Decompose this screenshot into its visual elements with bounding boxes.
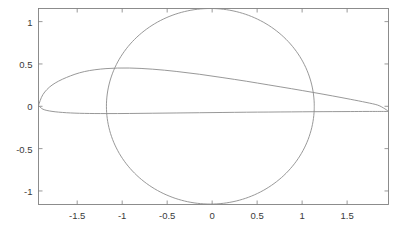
x-tick-label: 0.5: [251, 210, 264, 221]
x-tick-label: 0: [209, 210, 214, 221]
x-tick-label: 1.5: [341, 210, 354, 221]
plot-svg: [0, 0, 403, 236]
x-tick-label: 1: [299, 210, 304, 221]
curve-circle: [106, 9, 314, 205]
y-tick-label: -0.5: [16, 143, 32, 154]
y-tick-label: -1: [24, 185, 32, 196]
axes-box: [39, 9, 389, 205]
y-tick-label: 1: [27, 16, 32, 27]
x-tick-label: -1: [118, 210, 126, 221]
data-curves: [39, 9, 389, 205]
y-tick-label: 0.5: [19, 58, 32, 69]
curve-airfoil-upper: [39, 68, 389, 112]
figure-canvas: -1.5-1-0.500.511.5-1-0.500.51: [0, 0, 403, 236]
x-tick-label: -0.5: [159, 210, 175, 221]
axis-ticks: [39, 9, 389, 205]
curve-airfoil-lower: [39, 105, 389, 113]
x-tick-label: -1.5: [69, 210, 85, 221]
y-tick-label: 0: [27, 101, 32, 112]
axes-frame: [39, 9, 389, 205]
